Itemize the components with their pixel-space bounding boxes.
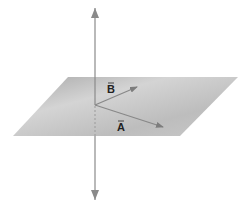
diagram-canvas: B A	[0, 0, 244, 207]
vector-b-label: B	[107, 83, 115, 95]
vector-a-label-group: A	[117, 121, 125, 133]
plane	[13, 77, 238, 136]
vector-a-label: A	[117, 121, 125, 133]
vector-b-label-group: B	[107, 83, 115, 95]
